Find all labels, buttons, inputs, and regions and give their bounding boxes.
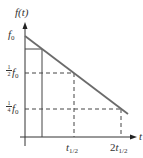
y-axis-arrow-icon	[23, 22, 28, 29]
x-label-t-half: t1/2	[66, 142, 78, 155]
x-axis-label: t	[139, 131, 142, 142]
y-label-f0: f0	[8, 29, 15, 42]
y-axis-label: f(t)	[15, 7, 28, 18]
decay-plot	[0, 0, 143, 158]
x-axis-arrow-icon	[130, 135, 137, 140]
decay-line	[25, 36, 128, 114]
x-label-two-t-half: 2t1/2	[110, 142, 128, 155]
y-label-quarter: f0	[12, 103, 19, 116]
y-label-half: f0	[12, 67, 19, 80]
